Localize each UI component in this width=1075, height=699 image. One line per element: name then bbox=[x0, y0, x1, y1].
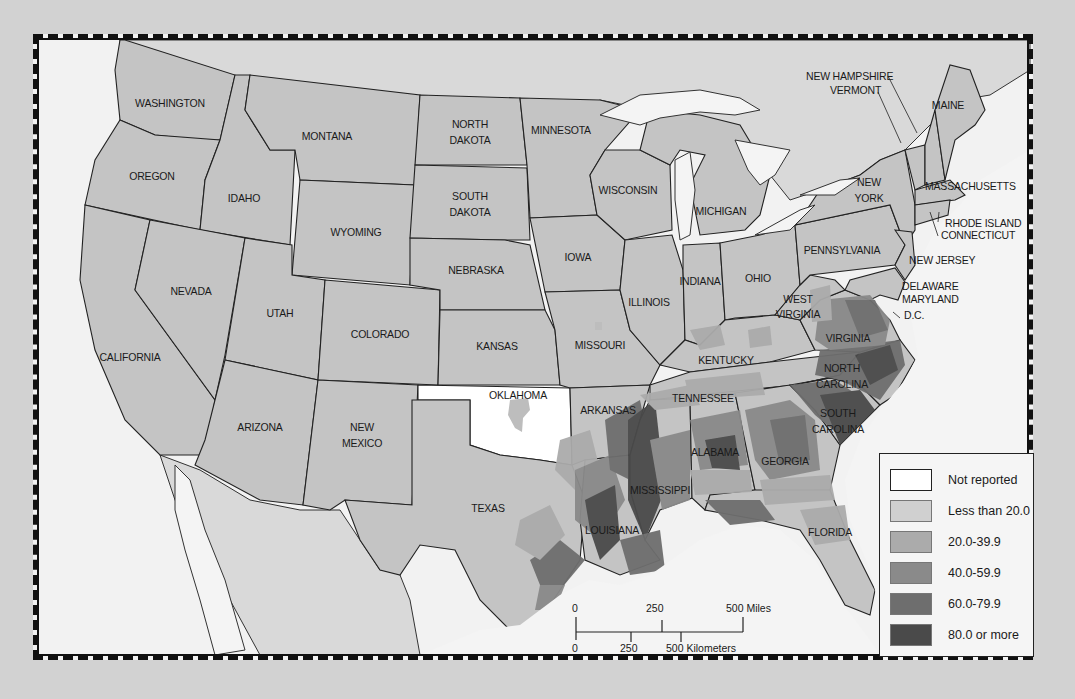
scale-km-0: 0 bbox=[572, 642, 578, 654]
legend-item-40-59: 40.0-59.9 bbox=[890, 557, 1033, 588]
label-maryland: MARYLAND bbox=[902, 293, 959, 305]
label-arizona: ARIZONA bbox=[237, 421, 282, 433]
legend-item-60-79: 60.0-79.9 bbox=[890, 588, 1033, 619]
legend-label: 20.0-39.9 bbox=[948, 535, 1001, 549]
label-florida: FLORIDA bbox=[808, 526, 852, 538]
label-north-dakota-1: NORTH bbox=[452, 118, 488, 130]
label-maine: MAINE bbox=[932, 99, 964, 111]
label-arkansas: ARKANSAS bbox=[580, 404, 636, 416]
legend-label: Not reported bbox=[948, 473, 1017, 487]
label-mississippi: MISSISSIPPI bbox=[630, 484, 690, 496]
label-wisconsin: WISCONSIN bbox=[599, 184, 658, 196]
label-iowa: IOWA bbox=[565, 251, 592, 263]
label-idaho: IDAHO bbox=[228, 192, 260, 204]
legend-label: 40.0-59.9 bbox=[948, 566, 1001, 580]
legend-item-not-reported: Not reported bbox=[890, 464, 1033, 495]
label-new-hampshire: NEW HAMPSHIRE bbox=[806, 70, 893, 82]
label-nevada: NEVADA bbox=[170, 285, 211, 297]
lake-michigan bbox=[675, 152, 695, 240]
label-alabama: ALABAMA bbox=[691, 446, 739, 458]
label-massachusetts: MASSACHUSETTS bbox=[925, 180, 1016, 192]
label-north-carolina-2: CAROLINA bbox=[816, 378, 868, 390]
legend-swatch bbox=[890, 562, 932, 584]
scale-km-250: 250 bbox=[620, 642, 638, 654]
label-west-virginia-2: VIRGINIA bbox=[776, 308, 821, 320]
label-south-dakota-2: DAKOTA bbox=[449, 206, 490, 218]
label-north-carolina-1: NORTH bbox=[824, 362, 860, 374]
legend-swatch bbox=[890, 624, 932, 646]
label-new-mexico-2: MEXICO bbox=[342, 437, 382, 449]
legend-swatch bbox=[890, 531, 932, 553]
label-new-york-1: NEW bbox=[857, 176, 881, 188]
legend-swatch bbox=[890, 500, 932, 522]
label-south-carolina-2: CAROLINA bbox=[812, 423, 864, 435]
label-minnesota: MINNESOTA bbox=[531, 124, 591, 136]
legend-item-20-39: 20.0-39.9 bbox=[890, 526, 1033, 557]
label-washington: WASHINGTON bbox=[135, 97, 205, 109]
label-west-virginia-1: WEST bbox=[783, 293, 813, 305]
map-legend: Not reported Less than 20.0 20.0-39.9 40… bbox=[879, 453, 1034, 657]
scale-bar: 0 250 500 Miles 0 250 500 Kilometers bbox=[566, 600, 776, 656]
label-delaware: DELAWARE bbox=[902, 280, 959, 292]
label-indiana: INDIANA bbox=[679, 275, 720, 287]
label-ohio: OHIO bbox=[745, 272, 771, 284]
label-texas: TEXAS bbox=[471, 502, 505, 514]
label-new-york-2: YORK bbox=[855, 192, 884, 204]
label-louisiana: LOUISIANA bbox=[585, 524, 639, 536]
label-south-carolina-1: SOUTH bbox=[820, 407, 856, 419]
label-utah: UTAH bbox=[266, 307, 293, 319]
label-tennessee: TENNESSEE bbox=[672, 392, 734, 404]
label-missouri: MISSOURI bbox=[575, 339, 625, 351]
label-new-jersey: NEW JERSEY bbox=[909, 254, 975, 266]
label-illinois: ILLINOIS bbox=[628, 296, 670, 308]
label-oklahoma: OKLAHOMA bbox=[489, 389, 547, 401]
legend-label: 60.0-79.9 bbox=[948, 597, 1001, 611]
label-california: CALIFORNIA bbox=[99, 351, 160, 363]
label-north-dakota-2: DAKOTA bbox=[449, 134, 490, 146]
label-vermont: VERMONT bbox=[830, 84, 882, 96]
label-kansas: KANSAS bbox=[476, 340, 518, 352]
state-south-dakota bbox=[410, 165, 530, 240]
legend-item-less-than-20: Less than 20.0 bbox=[890, 495, 1033, 526]
label-dc: D.C. bbox=[904, 309, 924, 321]
legend-label: Less than 20.0 bbox=[948, 504, 1030, 518]
label-new-mexico-1: NEW bbox=[350, 421, 374, 433]
label-colorado: COLORADO bbox=[351, 328, 410, 340]
label-south-dakota-1: SOUTH bbox=[452, 190, 488, 202]
label-wyoming: WYOMING bbox=[330, 226, 381, 238]
label-nebraska: NEBRASKA bbox=[448, 264, 504, 276]
scale-km-500: 500 Kilometers bbox=[666, 642, 736, 654]
label-georgia: GEORGIA bbox=[761, 455, 809, 467]
label-montana: MONTANA bbox=[302, 130, 353, 142]
legend-item-80-plus: 80.0 or more bbox=[890, 619, 1033, 650]
label-connecticut: CONNECTICUT bbox=[941, 229, 1016, 241]
label-michigan: MICHIGAN bbox=[696, 205, 747, 217]
label-rhode-island: RHODE ISLAND bbox=[945, 217, 1022, 229]
legend-swatch bbox=[890, 469, 932, 491]
label-kentucky: KENTUCKY bbox=[698, 354, 754, 366]
legend-label: 80.0 or more bbox=[948, 628, 1019, 642]
state-north-dakota bbox=[415, 95, 527, 165]
label-virginia: VIRGINIA bbox=[826, 332, 871, 344]
label-oregon: OREGON bbox=[129, 170, 174, 182]
legend-swatch bbox=[890, 593, 932, 615]
label-pennsylvania: PENNSYLVANIA bbox=[804, 244, 881, 256]
